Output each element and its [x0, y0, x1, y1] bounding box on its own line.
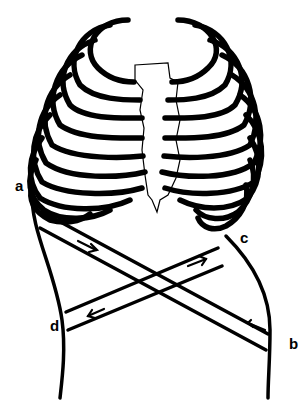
- label-d: d: [50, 318, 59, 333]
- right-ribs: [162, 20, 262, 229]
- left-ribs: [30, 20, 145, 222]
- label-a: a: [15, 178, 23, 193]
- label-b: b: [289, 336, 298, 351]
- rib-cage-diagram: [0, 0, 305, 400]
- label-c: c: [240, 230, 248, 245]
- band-c-to-d: [66, 248, 222, 330]
- body-outline-right: [226, 236, 270, 398]
